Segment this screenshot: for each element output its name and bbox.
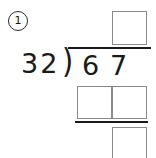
product-answer-box-1[interactable]	[112, 86, 147, 119]
problem-number-label: 1	[15, 15, 22, 26]
divisor-label: 32	[21, 50, 59, 77]
remainder-answer-box-0[interactable]	[112, 127, 147, 158]
quotient-answer-box-0[interactable]	[112, 11, 147, 45]
long-division-problem: 1 32 ) 6 7	[0, 0, 156, 158]
dividend-digit-0: 6	[82, 52, 99, 79]
division-vinculum	[68, 47, 151, 49]
problem-number-badge: 1	[8, 11, 28, 31]
subtraction-rule	[75, 121, 148, 123]
dividend-digit-1: 7	[110, 52, 127, 79]
product-answer-box-0[interactable]	[77, 86, 112, 119]
